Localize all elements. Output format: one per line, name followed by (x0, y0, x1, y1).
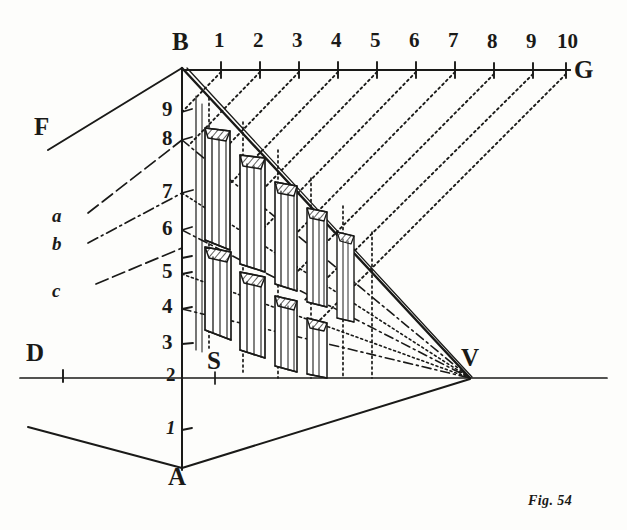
vertical-measuring-line (182, 68, 193, 470)
recess-upper-4 (307, 208, 327, 307)
scale-label-6: 6 (162, 218, 173, 239)
construction-label-c: c (52, 281, 60, 300)
scale-label-3: 3 (162, 332, 173, 353)
recess-lower-2 (240, 272, 265, 358)
recess-upper-2 (240, 155, 265, 272)
scale-label-7: 7 (162, 181, 173, 202)
ground-tick-label-1: 1 (214, 30, 225, 51)
scale-label-8: 8 (162, 128, 173, 149)
ground-tick-label-8: 8 (487, 31, 498, 52)
ground-tick-label-2: 2 (253, 30, 264, 51)
point-label-A: A (168, 464, 186, 489)
ground-line (182, 62, 570, 78)
scale-label-1: 1 (166, 418, 176, 437)
figure-page: B G F D S V A 1 2 3 4 5 6 7 8 9 10 9 8 7… (0, 0, 627, 530)
figure-caption: Fig. 54 (528, 494, 572, 508)
recess-upper-1 (205, 128, 230, 250)
point-label-V: V (461, 345, 479, 370)
recess-upper-3 (275, 182, 297, 291)
construction-label-b: b (52, 234, 62, 253)
ground-tick-label-9: 9 (526, 31, 537, 52)
scale-label-4: 4 (162, 296, 173, 317)
point-label-B: B (172, 29, 189, 54)
point-label-S: S (207, 348, 221, 373)
recess-lower-3 (275, 296, 297, 372)
point-label-D: D (26, 340, 44, 365)
recess-lower-1 (205, 247, 231, 340)
point-label-F: F (34, 114, 49, 139)
recess-upper-5 (337, 232, 354, 322)
auxiliary-line-A-to-V (182, 379, 470, 468)
perspective-diagram (0, 0, 627, 530)
point-label-G: G (574, 57, 593, 82)
auxiliary-line-A-left (28, 427, 182, 468)
scale-label-5: 5 (162, 261, 173, 282)
construction-label-a: a (52, 206, 62, 225)
ground-tick-label-5: 5 (370, 30, 381, 51)
recess-lower-4 (307, 318, 327, 378)
ground-tick-label-4: 4 (331, 30, 342, 51)
ground-tick-label-7: 7 (448, 30, 459, 51)
ground-tick-label-3: 3 (292, 30, 303, 51)
scale-label-2: 2 (166, 365, 176, 384)
scale-label-9: 9 (162, 99, 173, 120)
ground-tick-label-6: 6 (409, 30, 420, 51)
ground-tick-label-10: 10 (557, 31, 578, 52)
